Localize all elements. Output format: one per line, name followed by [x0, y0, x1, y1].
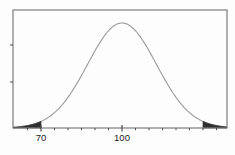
chart-canvas: 70100	[0, 0, 235, 155]
plot-area-background	[13, 10, 227, 128]
x-axis-tick-label-70: 70	[36, 132, 47, 143]
bell-curve-chart: 70100	[0, 0, 235, 155]
x-axis-tick-label-100: 100	[114, 132, 130, 143]
